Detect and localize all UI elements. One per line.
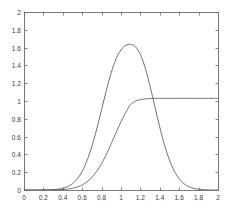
y-tick-label-9: 1.8: [12, 26, 21, 33]
y-tick-label-4: 0.8: [12, 115, 21, 122]
x-tick-label-10: 2: [216, 194, 220, 201]
y-tick-label-0: 0: [17, 187, 21, 194]
x-tick-label-7: 1.4: [155, 194, 164, 201]
y-tick-label-2: 0.4: [12, 151, 21, 158]
x-tick-label-2: 0.4: [58, 194, 67, 201]
x-tick-label-9: 1.8: [194, 194, 203, 201]
y-tick-label-7: 1.4: [12, 62, 21, 69]
plot-svg: [0, 0, 230, 212]
x-tick-label-5: 1: [119, 194, 123, 201]
y-tick-label-8: 1.6: [12, 44, 21, 51]
y-tick-label-5: 1: [17, 98, 21, 105]
series-line-gaussian-pdf: [24, 44, 218, 190]
x-tick-label-1: 0.2: [39, 194, 48, 201]
axes-box: [25, 13, 219, 191]
x-tick-label-4: 0.8: [97, 194, 106, 201]
x-tick-label-8: 1.6: [175, 194, 184, 201]
y-tick-label-6: 1.2: [12, 80, 21, 87]
x-tick-label-3: 0.6: [78, 194, 87, 201]
y-tick-label-3: 0.6: [12, 133, 21, 140]
series-group: [24, 44, 218, 190]
y-tick-label-1: 0.2: [12, 169, 21, 176]
series-line-sigmoid-cdf: [24, 98, 218, 190]
x-tick-label-0: 0: [22, 194, 26, 201]
x-tick-label-6: 1.2: [136, 194, 145, 201]
figure-canvas: 00.20.40.60.811.21.41.61.82 00.20.40.60.…: [0, 0, 230, 212]
y-tick-label-10: 2: [17, 9, 21, 16]
